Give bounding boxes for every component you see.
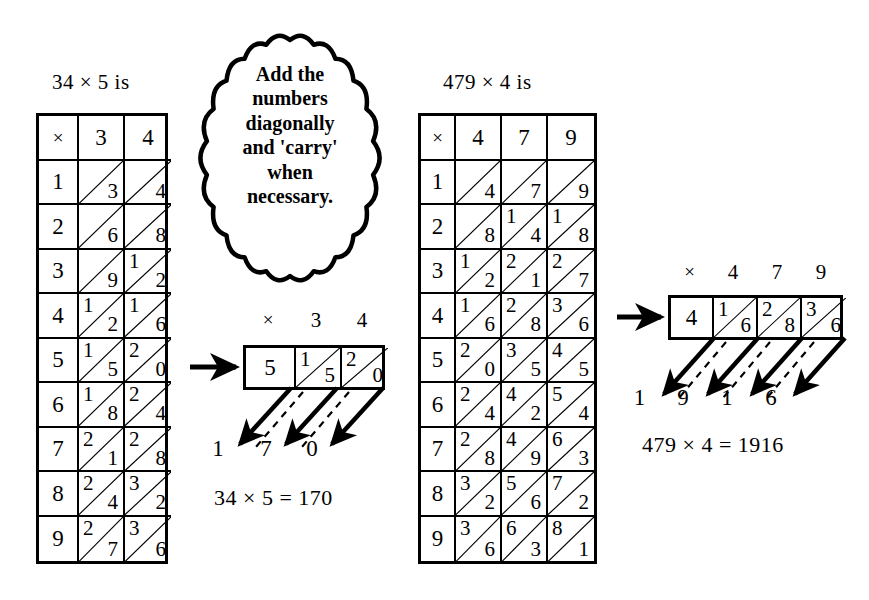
right-product-3x9-tens: 2 (552, 250, 563, 272)
right-product-4x7: 28 (502, 294, 548, 339)
left-corner-cell: × (39, 116, 79, 161)
left-product-7x4: 28 (125, 428, 171, 473)
right-product-4x7-tens: 2 (506, 294, 517, 316)
left-col-header-0-value: 3 (79, 116, 123, 159)
right-product-6x9-units: 4 (579, 402, 590, 424)
left-row-header-7-value: 7 (39, 428, 77, 471)
left-product-1x3-units: 3 (108, 180, 119, 202)
left-col-header-0: 3 (79, 116, 125, 161)
right-row-header-1: 1 (421, 161, 456, 206)
right-product-7x7: 49 (502, 428, 548, 473)
right-product-4x4-units: 6 (485, 313, 496, 335)
right-product-7x7-units: 9 (531, 447, 542, 469)
right-product-8x7-tens: 5 (506, 472, 517, 494)
right-col-header-0-value: 4 (456, 116, 500, 159)
right-row-header-4: 4 (421, 294, 456, 339)
left-answer-digit-2: 0 (289, 437, 335, 460)
right-row-header-4-value: 4 (421, 294, 454, 337)
right-product-7x9-units: 3 (579, 447, 590, 469)
left-row-header-4: 4 (39, 294, 79, 339)
left-product-1x3: 3 (79, 161, 125, 206)
bubble-line-5: necessary. (216, 184, 364, 208)
right-equation: 479 × 4 = 1916 (642, 432, 784, 458)
cell-diagonal-line (456, 161, 502, 206)
right-col-header-0: 4 (456, 116, 502, 161)
right-product-8x9-tens: 7 (552, 472, 563, 494)
right-product-3x4-tens: 1 (460, 250, 471, 272)
left-product-7x4-tens: 2 (129, 428, 140, 450)
cell-diagonal-line (456, 205, 502, 250)
left-strip-cell-1-tens: 1 (300, 348, 311, 370)
right-product-5x7-tens: 3 (506, 339, 517, 361)
right-product-9x7: 63 (502, 517, 548, 562)
right-product-1x7-units: 7 (531, 180, 542, 202)
left-product-4x4-units: 6 (156, 313, 167, 335)
right-row-header-9: 9 (421, 517, 456, 562)
right-product-1x9-units: 9 (579, 180, 590, 202)
right-row-header-3: 3 (421, 250, 456, 295)
left-row-header-7: 7 (39, 428, 79, 473)
left-corner-cell-value: × (39, 116, 77, 159)
left-row-header-3: 3 (39, 250, 79, 295)
right-row-header-6-value: 6 (421, 383, 454, 426)
right-strip-header-2: 7 (755, 262, 799, 283)
right-product-5x4-tens: 2 (460, 339, 471, 361)
right-row-header-1-value: 1 (421, 161, 454, 204)
right-product-4x9-tens: 3 (552, 294, 563, 316)
left-answer-digit-0: 1 (193, 437, 243, 460)
bubble-line-1: numbers (216, 86, 364, 110)
right-product-3x7: 21 (502, 250, 548, 295)
left-product-7x3-tens: 2 (83, 428, 94, 450)
left-product-8x4: 32 (125, 472, 171, 517)
right-product-8x7: 56 (502, 472, 548, 517)
right-product-6x9-tens: 5 (552, 383, 563, 405)
right-product-9x4-units: 6 (485, 538, 496, 560)
right-product-2x9-tens: 1 (552, 205, 563, 227)
left-product-3x4-tens: 1 (129, 250, 140, 272)
right-product-5x9: 45 (548, 339, 594, 384)
left-product-6x3-tens: 1 (83, 383, 94, 405)
left-row-header-8-value: 8 (39, 472, 77, 515)
left-product-1x4: 4 (125, 161, 171, 206)
right-answer-digit-1: 9 (661, 386, 705, 409)
left-strip-cell-2-tens: 2 (346, 348, 357, 370)
left-result-strip: 51520 (243, 345, 385, 390)
right-carry-arrow-3 (795, 338, 845, 394)
right-product-5x9-units: 5 (579, 358, 590, 380)
left-product-2x4-units: 8 (156, 224, 167, 246)
left-product-3x3: 9 (79, 250, 125, 295)
left-product-4x4-tens: 1 (129, 294, 140, 316)
left-answer-digit-1: 7 (243, 437, 289, 460)
left-product-5x4: 20 (125, 339, 171, 384)
left-answer-digits: 170 (193, 437, 335, 460)
right-product-3x9: 27 (548, 250, 594, 295)
right-product-9x4: 36 (456, 517, 502, 562)
left-example-caption: 34 × 5 is (52, 70, 130, 95)
left-product-8x3-units: 4 (108, 491, 119, 513)
right-result-strip: 4162836 (668, 295, 843, 340)
bubble-line-3: and 'carry' (216, 135, 364, 159)
left-product-8x4-tens: 3 (129, 472, 140, 494)
bubble-line-2: diagonally (216, 111, 364, 135)
right-product-6x9: 54 (548, 383, 594, 428)
right-product-1x9: 9 (548, 161, 594, 206)
left-product-5x4-tens: 2 (129, 339, 140, 361)
bubble-line-4: when (216, 160, 364, 184)
right-product-5x7: 35 (502, 339, 548, 384)
left-strip-cell-0: 5 (246, 348, 296, 387)
left-row-header-6: 6 (39, 383, 79, 428)
right-answer-digit-3: 6 (749, 386, 793, 409)
right-product-2x9: 18 (548, 205, 594, 250)
right-product-6x7-units: 2 (531, 402, 542, 424)
left-product-6x3: 18 (79, 383, 125, 428)
left-row-header-1-value: 1 (39, 161, 77, 204)
right-product-2x7-tens: 1 (506, 205, 517, 227)
left-product-4x3-tens: 1 (83, 294, 94, 316)
left-product-5x4-units: 0 (156, 358, 167, 380)
left-product-9x3: 27 (79, 517, 125, 562)
right-strip-cell-3-tens: 3 (806, 298, 817, 320)
left-row-header-5: 5 (39, 339, 79, 384)
right-product-8x9-units: 2 (579, 491, 590, 513)
left-row-header-3-value: 3 (39, 250, 77, 293)
left-product-5x3-tens: 1 (83, 339, 94, 361)
